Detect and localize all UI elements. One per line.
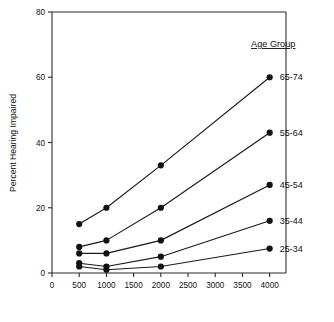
legend-labels: 65-7455-6445-5435-4425-34 xyxy=(280,72,303,253)
series-data-point xyxy=(76,221,82,227)
legend-entry-label: 45-54 xyxy=(280,180,303,190)
x-tick-label: 3500 xyxy=(233,281,252,290)
series-group xyxy=(76,245,273,272)
x-tick-label: 1500 xyxy=(125,281,144,290)
series-data-point xyxy=(158,254,164,260)
series-layer xyxy=(76,74,273,273)
series-data-point xyxy=(103,250,109,256)
x-tick-label: 1000 xyxy=(97,281,116,290)
legend-entry-label: 35-44 xyxy=(280,216,303,226)
y-tick-label: 60 xyxy=(36,73,46,82)
x-axis-ticks: 05001000150020002500300035004000 xyxy=(50,273,280,290)
y-axis-title: Percent Hearing Impaired xyxy=(8,94,18,192)
legend-title: Age Group xyxy=(251,39,295,49)
series-data-point xyxy=(267,130,273,136)
x-tick-label: 500 xyxy=(72,281,86,290)
series-line xyxy=(79,221,269,267)
y-axis-ticks: 020406080 xyxy=(36,8,52,278)
series-data-point xyxy=(158,263,164,269)
legend-entry-label: 25-34 xyxy=(280,244,303,254)
series-data-point xyxy=(76,250,82,256)
series-data-point xyxy=(158,237,164,243)
y-tick-label: 40 xyxy=(36,139,46,148)
x-tick-label: 4000 xyxy=(261,281,280,290)
y-tick-label: 20 xyxy=(36,204,46,213)
series-data-point xyxy=(103,237,109,243)
x-tick-label: 2000 xyxy=(152,281,171,290)
legend-entry-label: 55-64 xyxy=(280,128,303,138)
series-data-point xyxy=(103,267,109,273)
hearing-impairment-line-chart: 020406080 050010001500200025003000350040… xyxy=(0,0,334,322)
x-tick-label: 0 xyxy=(50,281,55,290)
series-data-point xyxy=(267,74,273,80)
x-tick-label: 2500 xyxy=(179,281,198,290)
series-line xyxy=(79,77,269,224)
series-data-point xyxy=(267,245,273,251)
legend-entry-label: 65-74 xyxy=(280,72,303,82)
y-tick-label: 0 xyxy=(40,269,45,278)
series-group xyxy=(76,130,273,250)
series-data-point xyxy=(267,182,273,188)
series-data-point xyxy=(76,263,82,269)
series-data-point xyxy=(76,244,82,250)
series-data-point xyxy=(158,205,164,211)
series-data-point xyxy=(158,162,164,168)
series-data-point xyxy=(103,205,109,211)
y-tick-label: 80 xyxy=(36,8,46,17)
plot-frame xyxy=(52,12,286,273)
series-data-point xyxy=(267,218,273,224)
series-group xyxy=(76,182,273,257)
x-tick-label: 3000 xyxy=(206,281,225,290)
chart-container: 020406080 050010001500200025003000350040… xyxy=(0,0,334,322)
series-group xyxy=(76,218,273,270)
